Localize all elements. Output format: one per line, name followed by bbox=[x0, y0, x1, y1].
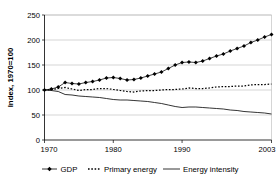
y-axis-title: Index, 1970=100 bbox=[6, 47, 15, 107]
y-tick-label: 100 bbox=[27, 86, 40, 95]
chart-container: 050100150200250 1970198019902003 Index, … bbox=[0, 0, 279, 181]
y-tick-label: 0 bbox=[36, 136, 40, 145]
chart-legend: GDP Primary energy Energy intensity bbox=[42, 165, 239, 174]
y-tick-label: 50 bbox=[32, 111, 40, 120]
y-tick-label: 150 bbox=[27, 61, 40, 70]
legend-label-energy-intensity: Energy intensity bbox=[183, 165, 239, 174]
legend-label-primary-energy: Primary energy bbox=[104, 165, 157, 174]
y-tick-label: 250 bbox=[27, 11, 40, 20]
x-tick-label: 1980 bbox=[105, 145, 122, 154]
line-chart: 050100150200250 1970198019902003 Index, … bbox=[0, 0, 279, 181]
y-tick-label: 200 bbox=[27, 36, 40, 45]
legend-label-gdp: GDP bbox=[61, 165, 78, 174]
x-tick-label: 1990 bbox=[174, 145, 191, 154]
x-tick-label: 1970 bbox=[41, 145, 58, 154]
x-tick-label: 2003 bbox=[259, 145, 276, 154]
